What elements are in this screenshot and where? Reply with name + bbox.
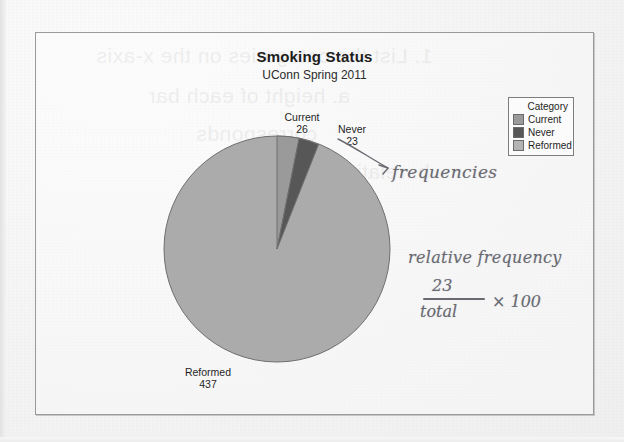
legend-item-never[interactable]: Never	[513, 127, 569, 138]
legend-item-current[interactable]: Current	[513, 114, 569, 125]
chart-frame: Smoking Status UConn Spring 2011 Current…	[35, 32, 594, 415]
legend-swatch-current	[513, 114, 524, 125]
legend-item-reformed[interactable]: Reformed	[513, 140, 569, 151]
slice-label-reformed-name: Reformed	[168, 366, 248, 378]
slice-label-current: Current 26	[272, 111, 332, 135]
legend-label-never: Never	[528, 127, 555, 138]
chart-subtitle: UConn Spring 2011	[36, 68, 593, 82]
legend-swatch-never	[513, 127, 524, 138]
page-edge-bottom	[0, 437, 624, 442]
slice-label-never-name: Never	[324, 123, 380, 135]
chart-title: Smoking Status	[36, 48, 593, 65]
chart-legend: Category Current Never Reformed	[508, 97, 574, 156]
slice-label-reformed: Reformed 437	[168, 366, 248, 390]
slice-label-current-name: Current	[272, 111, 332, 123]
legend-label-reformed: Reformed	[528, 140, 572, 151]
scanned-page: 1. List the categories on the x-axis a. …	[0, 0, 624, 442]
slice-label-reformed-value: 437	[168, 378, 248, 390]
page-edge-left	[0, 0, 6, 442]
legend-label-current: Current	[528, 114, 561, 125]
slice-label-current-value: 26	[272, 123, 332, 135]
annotation-fraction-bar	[423, 298, 485, 300]
legend-swatch-reformed	[513, 140, 524, 151]
legend-title: Category	[513, 101, 569, 112]
handwritten-arrow-icon	[336, 136, 406, 182]
